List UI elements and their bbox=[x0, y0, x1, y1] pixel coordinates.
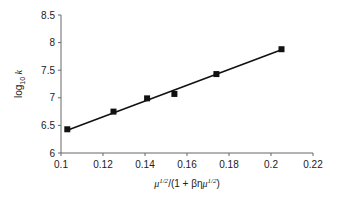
y-tick-label: 6 bbox=[49, 148, 55, 159]
regression-line bbox=[67, 50, 281, 131]
y-ticks: 66.577.588.5 bbox=[41, 10, 61, 159]
x-tick-label: 0.14 bbox=[135, 159, 155, 170]
x-tick-label: 0.12 bbox=[93, 159, 113, 170]
axes: 66.577.588.5 0.10.120.140.160.180.20.22 bbox=[41, 10, 323, 171]
data-point-square bbox=[144, 95, 150, 101]
data-point-square bbox=[171, 91, 177, 97]
y-tick-label: 7 bbox=[49, 92, 55, 103]
y-axis-title: log10 k bbox=[13, 69, 26, 98]
data-point-square bbox=[111, 109, 117, 115]
y-tick-label: 6.5 bbox=[41, 120, 55, 131]
x-tick-label: 0.22 bbox=[303, 159, 323, 170]
x-tick-label: 0.16 bbox=[177, 159, 197, 170]
data-point-square bbox=[279, 46, 285, 52]
chart-svg: 66.577.588.5 0.10.120.140.160.180.20.22 … bbox=[0, 0, 339, 203]
x-axis-title: μ1/2/(1 + βημ1/2) bbox=[153, 177, 220, 189]
x-tick-label: 0.1 bbox=[54, 159, 68, 170]
fit-line bbox=[67, 50, 281, 131]
y-tick-label: 7.5 bbox=[41, 65, 55, 76]
x-tick-label: 0.2 bbox=[264, 159, 278, 170]
x-ticks: 0.10.120.140.160.180.20.22 bbox=[54, 153, 323, 170]
y-tick-label: 8.5 bbox=[41, 10, 55, 21]
data-point-square bbox=[64, 126, 70, 132]
x-tick-label: 0.18 bbox=[219, 159, 239, 170]
data-point-square bbox=[213, 71, 219, 77]
y-tick-label: 8 bbox=[49, 37, 55, 48]
